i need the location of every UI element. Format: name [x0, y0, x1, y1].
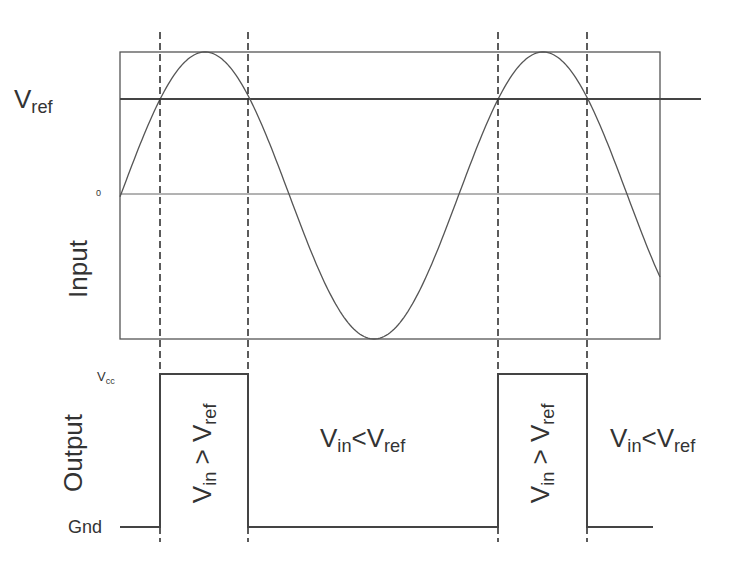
region-label-low-2: Vin<Vref — [610, 425, 695, 456]
output-axis-label: Output — [60, 408, 86, 498]
vcc-label: Vcc — [97, 370, 115, 386]
comparator-diagram — [0, 0, 730, 573]
input-plot-frame — [120, 52, 660, 339]
zero-label: 0 — [96, 189, 101, 198]
input-axis-label: Input — [65, 229, 91, 309]
vref-label: Vref — [14, 86, 53, 117]
crossing-markers — [160, 32, 587, 542]
input-sine-wave — [120, 52, 660, 339]
region-label-low-1: Vin<Vref — [320, 425, 405, 456]
region-label-high-2: Vin > Vref — [527, 403, 558, 503]
region-label-high-1: Vin > Vref — [189, 403, 220, 503]
gnd-label: Gnd — [68, 518, 102, 536]
